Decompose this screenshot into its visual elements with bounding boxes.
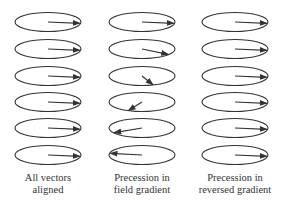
label-line: field gradient [95, 184, 189, 196]
label-line: reversed gradient [188, 184, 282, 196]
magnetization-vector-arrow-icon [235, 22, 267, 23]
magnetization-vector-arrow-icon [142, 76, 153, 85]
label-line: Precession in [188, 172, 282, 184]
vector-columns [15, 13, 268, 165]
label-line: All vectors [1, 172, 95, 184]
magnetization-vector-arrow-icon [235, 155, 267, 156]
column-aligned [15, 13, 81, 165]
magnetization-vector-arrow-icon [142, 49, 168, 54]
magnetization-vector-arrow-icon [48, 155, 80, 156]
label-all-vectors-aligned: All vectors aligned [1, 172, 95, 196]
magnetization-vector-arrow-icon [235, 128, 267, 129]
magnetization-vector-arrow-icon [48, 102, 80, 103]
label-line: aligned [1, 184, 95, 196]
magnetization-vector-arrow-icon [235, 76, 267, 77]
label-precession-reversed-gradient: Precession in reversed gradient [188, 172, 282, 196]
label-precession-field-gradient: Precession in field gradient [95, 172, 189, 196]
magnetization-vector-arrow-icon [48, 76, 80, 77]
magnetization-vector-arrow-icon [142, 22, 174, 23]
magnetization-vector-arrow-icon [48, 128, 80, 129]
column-field-gradient [109, 13, 175, 165]
magnetization-vector-arrow-icon [235, 49, 267, 50]
magnetization-vector-arrow-icon [235, 102, 267, 103]
magnetization-vector-arrow-icon [111, 153, 143, 155]
magnetization-vector-arrow-icon [48, 49, 80, 50]
column-reversed-gradient [202, 13, 268, 165]
label-line: Precession in [95, 172, 189, 184]
magnetization-vector-arrow-icon [129, 102, 143, 110]
magnetization-vector-arrow-icon [48, 22, 80, 23]
magnetization-vector-arrow-icon [114, 128, 142, 133]
